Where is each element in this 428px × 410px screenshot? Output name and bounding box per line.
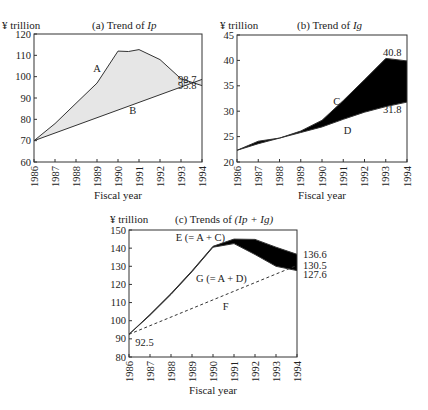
x-tick-label: 1994 xyxy=(402,165,413,187)
annotation-label: 127.6 xyxy=(303,269,327,280)
y-unit-label: ¥ trillion xyxy=(110,213,149,225)
x-tick-label: 1986 xyxy=(124,361,135,382)
x-tick-label: 1993 xyxy=(271,361,282,382)
y-tick-label: 140 xyxy=(110,243,126,254)
x-tick-label: 1988 xyxy=(274,166,285,187)
y-tick-label: 90 xyxy=(21,93,32,104)
y-tick-label: 25 xyxy=(224,131,235,142)
x-tick-label: 1992 xyxy=(155,166,166,187)
x-tick-label: 1994 xyxy=(292,360,303,382)
x-axis-label: Fiscal year xyxy=(94,189,142,201)
annotation-label: 92.5 xyxy=(135,337,153,348)
chart-panel-b: 2025303540451986198719881989199019911992… xyxy=(220,19,413,201)
x-tick-label: 1988 xyxy=(71,166,82,187)
annotation-label: 95.8 xyxy=(178,80,196,91)
x-tick-label: 1992 xyxy=(250,361,261,382)
y-unit-label: ¥ trillion xyxy=(220,19,259,31)
x-tick-label: 1992 xyxy=(359,166,370,187)
x-tick-label: 1987 xyxy=(145,361,156,382)
x-tick-label: 1994 xyxy=(197,165,208,187)
annotation-label: 40.8 xyxy=(383,47,401,58)
annotation-label: F xyxy=(223,301,229,312)
annotation-label: D xyxy=(344,125,352,136)
y-tick-label: 150 xyxy=(110,225,126,236)
x-tick-label: 1989 xyxy=(92,166,103,187)
x-tick-label: 1988 xyxy=(166,361,177,382)
y-unit-label: ¥ trillion xyxy=(2,19,41,31)
x-tick-label: 1991 xyxy=(338,166,349,187)
y-tick-label: 90 xyxy=(116,333,127,344)
y-tick-label: 35 xyxy=(224,80,235,91)
y-tick-label: 60 xyxy=(21,157,32,168)
y-tick-label: 70 xyxy=(21,135,32,146)
y-tick-label: 100 xyxy=(110,315,126,326)
chart-panel-a: 6070809010011012019861987198819891990199… xyxy=(2,19,208,201)
y-tick-label: 80 xyxy=(116,352,127,363)
y-tick-label: 20 xyxy=(224,157,235,168)
y-tick-label: 120 xyxy=(110,279,126,290)
x-tick-label: 1991 xyxy=(134,166,145,187)
annotation-label: 136.6 xyxy=(303,249,327,260)
y-tick-label: 110 xyxy=(111,297,126,308)
y-tick-label: 130 xyxy=(110,261,126,272)
x-tick-label: 1990 xyxy=(113,166,124,187)
y-tick-label: 45 xyxy=(224,30,235,41)
annotation-label: B xyxy=(129,105,136,116)
fill-region xyxy=(237,58,407,150)
chart-title: (a) Trend of Ip xyxy=(92,19,157,32)
y-tick-label: 40 xyxy=(224,55,235,66)
x-tick-label: 1989 xyxy=(187,361,198,382)
y-tick-label: 100 xyxy=(15,71,31,82)
x-tick-label: 1986 xyxy=(29,166,40,187)
x-tick-label: 1990 xyxy=(317,166,328,187)
annotation-label: A xyxy=(93,63,101,74)
x-tick-label: 1993 xyxy=(176,166,187,187)
x-tick-label: 1991 xyxy=(229,361,240,382)
y-tick-label: 110 xyxy=(16,50,31,61)
chart-title: (c) Trends of (Ip + Ig) xyxy=(175,213,274,226)
x-tick-label: 1987 xyxy=(253,166,264,187)
x-tick-label: 1993 xyxy=(380,166,391,187)
y-tick-label: 80 xyxy=(21,114,32,125)
x-tick-label: 1986 xyxy=(232,166,243,187)
y-tick-label: 30 xyxy=(224,106,235,117)
x-axis-label: Fiscal year xyxy=(189,384,237,396)
chart-panel-c: 8090100110120130140150198619871988198919… xyxy=(110,213,327,396)
chart-title: (b) Trend of Ig xyxy=(297,19,363,32)
x-tick-label: 1990 xyxy=(208,361,219,382)
annotation-label: 31.8 xyxy=(383,104,401,115)
fill-region xyxy=(34,50,202,141)
annotation-label: C xyxy=(333,96,340,107)
x-axis-label: Fiscal year xyxy=(298,189,346,201)
x-tick-label: 1987 xyxy=(50,166,61,187)
annotation-label: G (= A + D) xyxy=(196,273,247,285)
fill-region xyxy=(129,239,297,334)
annotation-label: E (= A + C) xyxy=(176,232,226,244)
figure-canvas: 6070809010011012019861987198819891990199… xyxy=(0,0,428,410)
x-tick-label: 1989 xyxy=(295,166,306,187)
